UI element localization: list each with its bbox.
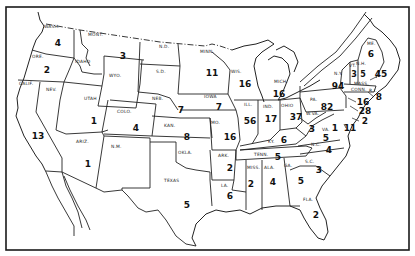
value-wva: 3: [309, 124, 315, 134]
label-mont: MONT.: [88, 32, 103, 37]
label-wyo: WYO.: [109, 73, 121, 78]
value-mich: 16: [273, 89, 286, 99]
value-calif: 13: [32, 131, 45, 141]
pacific-coast: [16, 12, 46, 172]
label-ark: ARK.: [218, 153, 229, 158]
label-sd: S.D.: [156, 69, 166, 74]
value-md: 1: [332, 123, 338, 133]
label-texas: TEXAS: [163, 178, 179, 183]
value-tenn: 5: [275, 152, 281, 162]
label-wis: WIS.: [231, 69, 242, 74]
label-iowa: IOWA: [204, 94, 217, 99]
value-colo: 4: [133, 123, 139, 133]
label-nev: NEV.: [46, 87, 57, 92]
label-idaho: IDAHO: [75, 59, 91, 64]
label-utah: UTAH: [84, 96, 97, 101]
value-fla: 2: [313, 210, 319, 220]
label-wva: W.VA.: [306, 111, 319, 116]
value-vt: 3: [351, 70, 357, 79]
value-wash: 4: [55, 38, 61, 48]
value-ind: 17: [265, 114, 278, 124]
label-ind: IND.: [263, 104, 273, 109]
label-nd: N.D.: [159, 44, 169, 49]
label-la: LA.: [221, 183, 228, 188]
value-minn: 11: [206, 68, 219, 78]
label-mo: MO.: [211, 120, 220, 125]
label-nc: N.C.: [311, 142, 321, 147]
value-ark: 2: [227, 163, 233, 173]
label-ore: ORE.: [32, 54, 43, 59]
gulf-coast: [192, 198, 328, 246]
label-ohio: OHIO: [281, 103, 294, 108]
state-values: 4 2 13 3 1 4 1 7 8 5 11 7 16 2 6 16 56 1…: [32, 38, 388, 220]
label-ga: GA.: [284, 163, 292, 168]
label-colo: COLO.: [117, 109, 131, 114]
value-ky: 6: [281, 135, 287, 145]
label-ariz: ARIZ.: [76, 139, 89, 144]
value-mass: 45: [375, 69, 388, 79]
baja-coast: [46, 172, 90, 236]
value-texas: 5: [184, 200, 190, 210]
label-conn: CONN.: [351, 87, 367, 92]
value-me: 6: [368, 49, 374, 59]
value-mo: 16: [224, 132, 237, 142]
value-va: 5: [323, 133, 329, 143]
label-ny: N.Y.: [334, 71, 343, 76]
label-tenn: TENN.: [253, 152, 268, 157]
label-okla: OKLA.: [178, 150, 192, 155]
label-neb: NEB.: [152, 96, 163, 101]
value-mont: 3: [120, 51, 126, 61]
value-md-east: 2: [362, 116, 368, 126]
value-sc: 3: [316, 165, 322, 175]
value-la: 6: [227, 191, 233, 201]
label-minn: MINN.: [200, 49, 214, 54]
value-nh: 5: [360, 70, 366, 79]
label-ala: ALA.: [264, 165, 275, 170]
label-pa: PA.: [310, 97, 317, 102]
label-nh: N.H.: [356, 61, 366, 66]
value-ill: 56: [244, 116, 257, 126]
label-va: VA.: [322, 127, 330, 132]
value-utah: 1: [91, 116, 97, 126]
label-fla: FLA.: [303, 197, 313, 202]
value-iowa: 7: [216, 102, 222, 112]
label-mich: MICH.: [274, 79, 288, 84]
label-kan: KAN.: [164, 123, 175, 128]
value-dc: 11: [344, 123, 357, 133]
value-ohio: 37: [290, 112, 303, 122]
value-wis: 16: [239, 79, 252, 89]
value-ore: 2: [44, 65, 50, 75]
value-ri: 8: [376, 92, 382, 102]
value-kan: 8: [184, 132, 190, 142]
value-neb: 7: [178, 105, 184, 115]
label-sc: S.C.: [305, 159, 314, 164]
value-ny: 94: [332, 81, 345, 91]
label-ky: KY.: [268, 139, 275, 144]
value-miss: 2: [248, 179, 254, 189]
value-ga: 5: [298, 176, 304, 186]
label-mass: MASS.: [354, 81, 369, 86]
value-nc: 4: [326, 145, 332, 155]
state-abbreviations: WASH. ORE. CALIF. NEV. IDAHO MONT. WYO. …: [19, 24, 377, 202]
value-pa: 82: [321, 102, 334, 112]
label-nm: N.M.: [111, 144, 122, 149]
value-ariz: 1: [85, 159, 91, 169]
label-miss: MISS.: [247, 165, 260, 170]
value-ala: 4: [270, 177, 276, 187]
label-calif: CALIF.: [19, 81, 33, 86]
label-ill: ILL.: [244, 102, 252, 107]
label-wash: WASH.: [44, 24, 60, 29]
value-del: 28: [359, 106, 372, 116]
label-me: ME.: [367, 41, 376, 46]
us-state-map: WASH. ORE. CALIF. NEV. IDAHO MONT. WYO. …: [0, 0, 415, 256]
